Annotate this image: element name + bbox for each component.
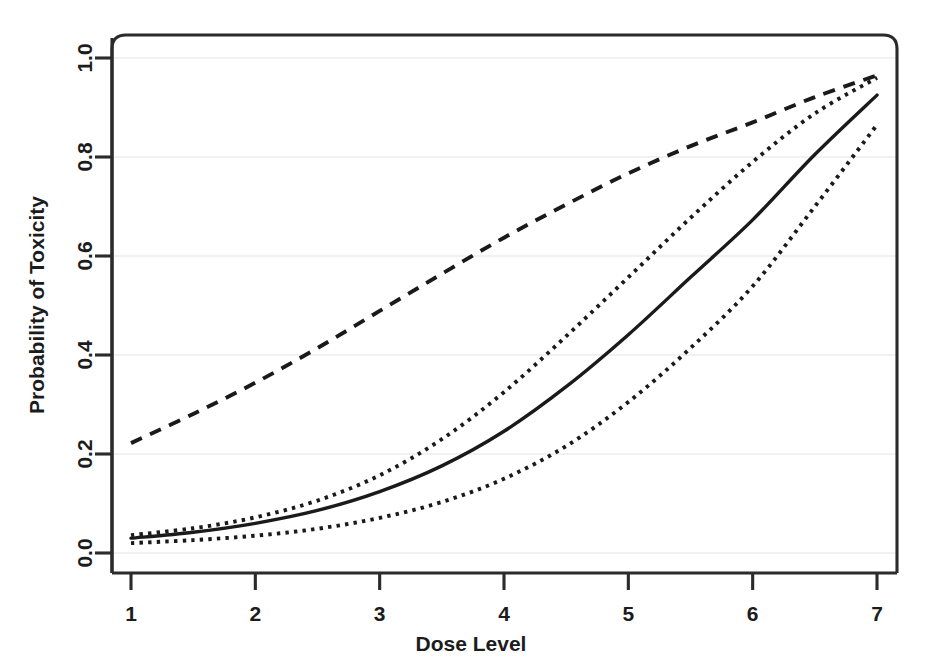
- x-tick-label: 5: [622, 602, 634, 625]
- y-tick-label: 0.8: [73, 142, 96, 172]
- y-tick-label: 0.6: [73, 241, 96, 270]
- y-tick-label: 0.0: [73, 538, 96, 567]
- chart-background: [0, 0, 942, 666]
- y-tick-label: 1.0: [73, 43, 96, 72]
- chart-figure: 1234567 0.00.20.40.60.81.0 Dose Level Pr…: [0, 0, 942, 666]
- y-tick-label: 0.2: [73, 439, 96, 468]
- x-tick-label: 4: [498, 602, 510, 625]
- x-tick-label: 1: [125, 602, 137, 625]
- x-tick-label: 7: [871, 602, 883, 625]
- x-tick-label: 2: [249, 602, 261, 625]
- x-tick-label: 6: [747, 602, 759, 625]
- toxicity-probability-chart: 1234567 0.00.20.40.60.81.0 Dose Level Pr…: [0, 0, 942, 666]
- x-tick-label: 3: [374, 602, 386, 625]
- x-axis-title: Dose Level: [416, 632, 527, 655]
- y-tick-label: 0.4: [73, 340, 96, 370]
- y-axis-title: Probability of Toxicity: [25, 196, 48, 414]
